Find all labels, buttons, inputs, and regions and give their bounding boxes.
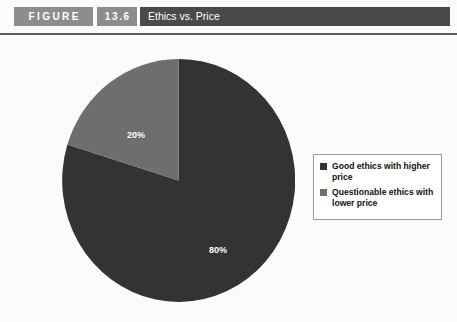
legend-item-label: Questionable ethics with lower price: [332, 187, 436, 208]
figure-header: FIGURE 13.6 Ethics vs. Price: [0, 0, 457, 32]
legend-swatch-icon: [320, 163, 327, 170]
legend-item-good-ethics[interactable]: Good ethics with higher price: [320, 161, 436, 182]
figure-title-block: Ethics vs. Price: [140, 7, 450, 26]
figure-number-text: 13.6: [103, 12, 130, 22]
legend-item-label: Good ethics with higher price: [332, 161, 436, 182]
legend-item-questionable-ethics[interactable]: Questionable ethics with lower price: [320, 187, 436, 208]
pie-slice-minor-label: 20%: [127, 131, 145, 140]
figure-label-block: FIGURE: [14, 7, 93, 26]
pie-chart-svg: [62, 59, 295, 302]
chart-legend: Good ethics with higher price Questionab…: [313, 154, 442, 220]
figure-label-text: FIGURE: [26, 12, 81, 22]
chart-frame: 20% 80% Good ethics with higher price Qu…: [0, 33, 457, 322]
page-title: Ethics vs. Price: [140, 11, 220, 22]
figure-number-block: 13.6: [97, 7, 137, 26]
pie-chart: 20% 80%: [62, 59, 295, 302]
legend-swatch-icon: [320, 189, 327, 196]
figure-page: FIGURE 13.6 Ethics vs. Price 20% 80% Goo…: [0, 0, 457, 322]
pie-slice-major-label: 80%: [209, 246, 227, 255]
